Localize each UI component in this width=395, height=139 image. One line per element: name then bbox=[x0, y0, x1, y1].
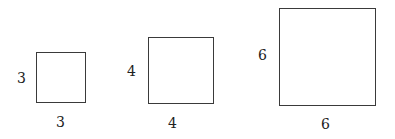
square-6-side-label: 6 bbox=[258, 48, 267, 62]
square-6-bottom-label: 6 bbox=[321, 117, 330, 131]
square-3 bbox=[36, 52, 86, 103]
square-3-bottom-label: 3 bbox=[56, 115, 65, 129]
square-4 bbox=[148, 37, 214, 104]
square-3-side-label: 3 bbox=[17, 71, 26, 85]
square-6 bbox=[279, 8, 376, 106]
square-4-side-label: 4 bbox=[127, 64, 136, 78]
square-4-bottom-label: 4 bbox=[168, 116, 177, 130]
